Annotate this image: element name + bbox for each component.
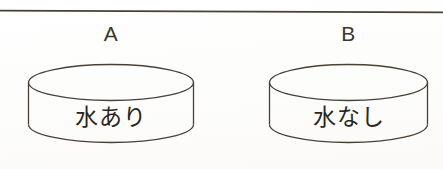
vessel-a-caption: 水あり (24, 104, 198, 130)
vessel-a-label: A (24, 22, 198, 46)
vessel-b-caption: 水なし (265, 104, 432, 130)
vessel-b: B 水なし (265, 22, 432, 147)
vessel-a: A 水あり (24, 22, 198, 147)
figure-container: A 水あり B 水なし (0, 0, 443, 169)
horizontal-rule-icon (0, 9, 443, 14)
vessel-b-label: B (265, 22, 432, 46)
